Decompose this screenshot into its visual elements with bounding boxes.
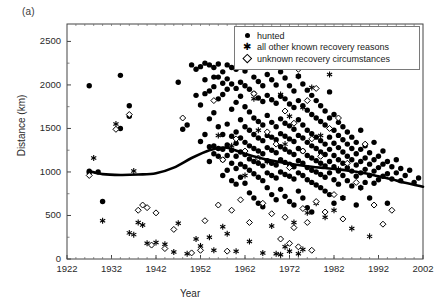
data-point-other [193, 236, 198, 242]
data-point-hunted [269, 120, 274, 125]
data-point-hunted [407, 168, 412, 173]
data-point-unknown [171, 226, 177, 232]
data-point-hunted [362, 180, 367, 185]
data-point-hunted [265, 113, 270, 118]
data-point-other [327, 71, 332, 77]
data-point-hunted [367, 195, 372, 200]
data-point-hunted [358, 159, 363, 164]
data-point-hunted [211, 110, 216, 115]
data-point-hunted [309, 93, 314, 98]
data-point-hunted [216, 61, 221, 66]
data-point-hunted [189, 62, 194, 67]
data-point-unknown [353, 179, 359, 185]
data-point-other [349, 226, 354, 232]
data-point-hunted [256, 119, 261, 124]
data-point-hunted [278, 116, 283, 121]
data-point-hunted [358, 147, 363, 152]
data-point-hunted [358, 127, 363, 132]
data-point-hunted [233, 181, 238, 186]
data-point-hunted [220, 92, 225, 97]
data-point-unknown [389, 207, 395, 213]
data-point-other [225, 231, 230, 237]
data-point-hunted [291, 127, 296, 132]
data-point-hunted [314, 115, 319, 120]
data-point-hunted [385, 201, 390, 206]
data-point-hunted [318, 119, 323, 124]
data-point-hunted [331, 141, 336, 146]
open-diamond-icon [239, 55, 255, 62]
data-point-hunted [398, 166, 403, 171]
data-point-hunted [305, 107, 310, 112]
legend-item-label: unknown recovery circumstances [255, 54, 390, 64]
data-point-hunted [354, 162, 359, 167]
data-point-hunted [229, 107, 234, 112]
data-point-hunted [345, 178, 350, 183]
data-point-hunted [345, 141, 350, 146]
filled-circle-icon [239, 33, 255, 38]
data-point-hunted [225, 153, 230, 158]
data-point-hunted [251, 132, 256, 137]
data-point-hunted [376, 154, 381, 159]
data-point-hunted [265, 93, 270, 98]
data-point-hunted [336, 133, 341, 138]
data-point-other [91, 155, 96, 161]
data-point-hunted [340, 149, 345, 154]
data-point-hunted [327, 170, 332, 175]
data-point-hunted [362, 167, 367, 172]
data-point-hunted [394, 157, 399, 162]
data-point-hunted [273, 175, 278, 180]
data-point-hunted [118, 73, 123, 78]
data-point-hunted [269, 77, 274, 82]
data-point-hunted [225, 168, 230, 173]
data-point-hunted [229, 161, 234, 166]
data-point-hunted [416, 175, 421, 180]
data-point-other [176, 220, 181, 226]
data-point-hunted [349, 183, 354, 188]
scatter-figure: (a) Distance (km) Year 05001000150020002… [0, 0, 448, 308]
data-point-unknown [202, 218, 208, 224]
data-point-unknown [371, 202, 377, 208]
data-point-unknown [238, 197, 244, 203]
data-point-other [211, 247, 216, 253]
data-point-hunted [345, 154, 350, 159]
data-point-hunted [260, 151, 265, 156]
data-point-hunted [309, 112, 314, 117]
data-point-other [247, 239, 252, 245]
data-point-hunted [318, 138, 323, 143]
data-point-other [234, 248, 239, 254]
data-point-hunted [336, 157, 341, 162]
data-point-hunted [345, 129, 350, 134]
data-point-unknown [198, 247, 204, 253]
data-point-hunted [327, 134, 332, 139]
data-point-hunted [362, 155, 367, 160]
data-point-hunted [327, 115, 332, 120]
legend-item: hunted [239, 30, 415, 42]
data-point-hunted [87, 83, 92, 88]
data-point-hunted [193, 93, 198, 98]
legend-item-label: hunted [255, 31, 285, 41]
data-point-unknown [269, 211, 275, 217]
data-point-hunted [198, 139, 203, 144]
data-point-unknown [309, 247, 315, 253]
data-point-hunted [340, 173, 345, 178]
data-point-hunted [327, 159, 332, 164]
data-point-hunted [331, 201, 336, 206]
data-point-hunted [211, 84, 216, 89]
data-point-other [287, 113, 292, 119]
data-point-hunted [233, 154, 238, 159]
data-point-unknown [331, 192, 337, 198]
data-point-hunted [331, 177, 336, 182]
data-point-hunted [300, 173, 305, 178]
data-point-other [171, 249, 176, 255]
data-point-hunted [354, 151, 359, 156]
data-point-hunted [282, 96, 287, 101]
data-point-other [140, 222, 145, 228]
data-point-hunted [380, 148, 385, 153]
data-point-hunted [296, 98, 301, 103]
data-point-hunted [256, 79, 261, 84]
data-point-hunted [238, 174, 243, 179]
data-point-hunted [207, 88, 212, 93]
data-point-hunted [349, 134, 354, 139]
data-point-hunted [273, 150, 278, 155]
data-point-unknown [295, 244, 301, 250]
